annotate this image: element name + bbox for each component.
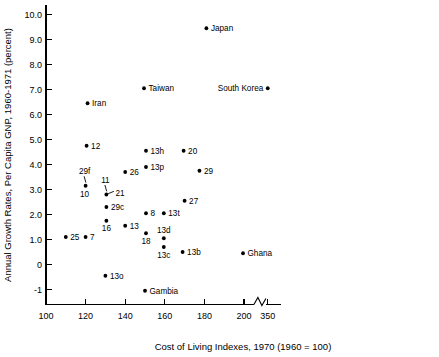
- point-label: 7: [90, 233, 95, 242]
- x-tick-label: 100: [38, 311, 53, 321]
- point-label: 8: [150, 209, 155, 218]
- point-marker: [143, 289, 147, 293]
- data-point: 26: [123, 168, 139, 177]
- point-marker: [84, 235, 88, 239]
- data-point: 29f: [79, 167, 91, 188]
- point-label: 10: [80, 190, 90, 199]
- point-label: 12: [91, 142, 101, 151]
- data-point: 12: [85, 142, 101, 151]
- point-marker: [162, 236, 166, 240]
- data-point: South Korea: [218, 84, 270, 93]
- point-marker: [162, 211, 166, 215]
- point-label: Japan: [211, 24, 234, 33]
- point-marker: [183, 199, 187, 203]
- point-label: 13p: [150, 163, 164, 172]
- point-label: 26: [130, 168, 140, 177]
- point-marker: [104, 193, 108, 197]
- point-label: 29c: [111, 203, 124, 212]
- y-tick-label: -1: [34, 285, 42, 295]
- data-point: 29: [198, 167, 214, 176]
- data-point: Iran: [86, 99, 107, 108]
- point-label: 16: [102, 224, 112, 233]
- data-point: 13t: [162, 209, 181, 218]
- point-label: 13d: [157, 226, 171, 235]
- point-label: Taiwan: [149, 84, 175, 93]
- y-tick-label: 0: [37, 260, 42, 270]
- data-points: JapanSouth KoreaTaiwanIran1213h2013p2629…: [64, 24, 273, 296]
- x-tick-label: 140: [118, 311, 133, 321]
- point-label: 18: [141, 237, 151, 246]
- data-point: 13: [123, 222, 139, 231]
- x-tick-label: 350: [260, 311, 275, 321]
- point-marker: [104, 274, 108, 278]
- data-point: 25: [64, 233, 80, 242]
- data-point: 7: [84, 233, 95, 242]
- point-marker: [144, 231, 148, 235]
- x-tick-label: 120: [78, 311, 93, 321]
- point-label: Ghana: [248, 249, 273, 258]
- y-tick-label: 7.0: [29, 85, 42, 95]
- plot-area: 100120140160180200350 10.09.08.07.06.05.…: [0, 0, 439, 357]
- y-tick-label: 2.0: [29, 210, 42, 220]
- point-label: 13h: [150, 147, 164, 156]
- point-marker: [144, 211, 148, 215]
- point-label: 29: [204, 167, 214, 176]
- y-tick-label: 10.0: [24, 10, 42, 20]
- point-marker: [182, 149, 186, 153]
- point-marker: [142, 86, 146, 90]
- data-point: 21: [108, 189, 125, 198]
- y-axis-title: Annual Growth Rates, Per Capita GNP, 196…: [2, 28, 13, 282]
- data-point: 13b: [181, 248, 202, 257]
- data-point: Gambia: [143, 287, 179, 296]
- point-label: 13b: [187, 248, 201, 257]
- x-tick-label: 200: [236, 311, 251, 321]
- point-label: Iran: [92, 99, 107, 108]
- point-label: South Korea: [218, 84, 264, 93]
- data-point: 16: [102, 219, 112, 233]
- data-point: 13p: [144, 163, 165, 172]
- x-tick-label: 180: [197, 311, 212, 321]
- point-marker: [123, 170, 127, 174]
- point-label: 13t: [168, 209, 180, 218]
- point-label: 13c: [157, 251, 170, 260]
- data-point: 20: [182, 147, 198, 156]
- y-tick-label: 8.0: [29, 60, 42, 70]
- label-leader-line: [105, 185, 107, 191]
- label-leader-line: [84, 176, 86, 182]
- x-tick-label: 160: [157, 311, 172, 321]
- data-point: 8: [144, 209, 155, 218]
- axis-break-symbol: [254, 298, 266, 306]
- point-label: 21: [115, 189, 125, 198]
- point-marker: [104, 205, 108, 209]
- point-marker: [104, 219, 108, 223]
- data-point: 13o: [104, 272, 125, 281]
- y-tick-label: 4.0: [29, 160, 42, 170]
- y-axis-ticks: 10.09.08.07.06.05.04.03.02.01.00-1: [24, 10, 52, 295]
- y-tick-label: 9.0: [29, 35, 42, 45]
- data-point: 27: [183, 197, 199, 206]
- point-label: 11: [101, 176, 110, 185]
- data-point: Ghana: [241, 249, 272, 258]
- point-marker: [123, 224, 127, 228]
- point-marker: [204, 26, 208, 30]
- data-point: Japan: [204, 24, 233, 33]
- point-label: 25: [70, 233, 80, 242]
- point-marker: [241, 251, 245, 255]
- point-label: Gambia: [150, 287, 179, 296]
- point-marker: [162, 245, 166, 249]
- label-leader-line: [108, 191, 114, 193]
- data-point: 13c: [157, 245, 170, 259]
- point-marker: [85, 144, 89, 148]
- y-tick-label: 1.0: [29, 235, 42, 245]
- y-tick-label: 6.0: [29, 110, 42, 120]
- y-tick-label: 3.0: [29, 185, 42, 195]
- data-point: 13h: [144, 147, 165, 156]
- data-point: Taiwan: [142, 84, 174, 93]
- x-axis-title: Cost of Living Indexes, 1970 (1960 = 100…: [155, 341, 332, 352]
- point-marker: [144, 149, 148, 153]
- data-point: 13d: [157, 226, 171, 240]
- point-label: 20: [188, 147, 198, 156]
- data-point: 29c: [104, 203, 124, 212]
- point-marker: [181, 250, 185, 254]
- point-marker: [64, 235, 68, 239]
